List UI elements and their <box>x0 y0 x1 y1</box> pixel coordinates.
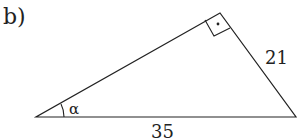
triangle-diagram: b) α 21 35 <box>0 0 297 139</box>
side-label-35: 35 <box>151 121 174 139</box>
angle-alpha-arc <box>61 104 64 117</box>
angle-alpha-label: α <box>69 100 79 118</box>
side-label-21: 21 <box>265 47 288 68</box>
right-angle-dot <box>217 23 220 26</box>
part-label: b) <box>3 4 26 29</box>
diagram-stage: b) α 21 35 <box>0 0 297 139</box>
